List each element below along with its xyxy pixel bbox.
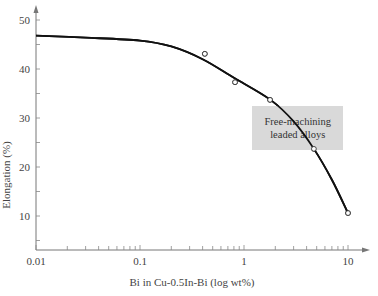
data-point-marker xyxy=(233,80,238,85)
data-point-marker xyxy=(346,211,351,216)
data-point-marker xyxy=(311,146,316,151)
curve-path xyxy=(36,36,348,213)
fitted-curve xyxy=(36,36,348,213)
data-point-marker xyxy=(268,97,273,102)
data-points xyxy=(202,51,350,215)
data-point-marker xyxy=(202,51,207,56)
curve-overlay xyxy=(0,0,378,296)
